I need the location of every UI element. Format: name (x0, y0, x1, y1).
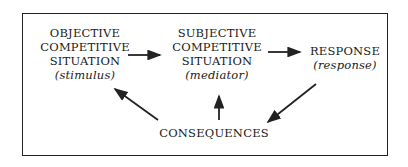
arrow-response-to-consequences (268, 84, 316, 122)
arrows (0, 0, 408, 167)
arrow-consequences-to-objective (115, 89, 158, 120)
